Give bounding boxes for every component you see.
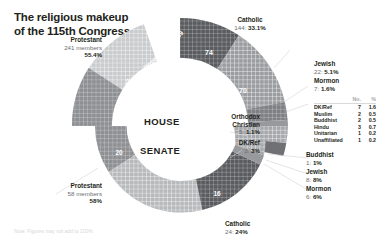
callout-label: Catholic xyxy=(212,16,288,24)
infographic-page: The religious makeupof the 115th Congres… xyxy=(0,0,379,248)
callout-pct: 5.1% xyxy=(324,68,338,75)
row-name: Unaffiliated xyxy=(314,137,350,144)
row-name: Muslim xyxy=(314,111,350,118)
row-pct: 0.5 xyxy=(361,117,376,124)
table-row: Unaffiliated 1 0.2 xyxy=(314,137,376,144)
minor-religions-table-head: No. % xyxy=(314,96,376,104)
row-no: 2 xyxy=(350,111,361,118)
senate-slice-catholic[interactable] xyxy=(196,151,260,210)
row-name: DK/Ref xyxy=(314,104,350,111)
row-name: Hindu xyxy=(314,124,350,131)
callout-label: Orthodox xyxy=(216,113,260,121)
row-name: Buddhist xyxy=(314,117,350,124)
row-no: 2 xyxy=(350,117,361,124)
callout-label-2: Christian xyxy=(216,121,260,129)
header-no: No. xyxy=(350,96,361,104)
header-name xyxy=(314,96,350,104)
callout-house-mormon: Mormon 7: 1.6% xyxy=(314,77,374,92)
callout-label: DK/Ref xyxy=(216,139,260,147)
header-pct: % xyxy=(361,96,376,104)
table-row: DK/Ref 7 1.6 xyxy=(314,104,376,111)
table-header-row: No. % xyxy=(314,96,376,104)
table-row: Unitarian 1 0.2 xyxy=(314,130,376,137)
row-pct: 1.6 xyxy=(361,104,376,111)
callout-house-jewish: Jewish 22: 5.1% xyxy=(314,60,374,75)
minor-religions-table: No. % DK/Ref 7 1.6 Muslim 2 0.5 Buddhist… xyxy=(314,96,376,144)
row-pct: 0.2 xyxy=(361,137,376,144)
callout-label: Mormon xyxy=(314,77,374,85)
callout-members: 58 members xyxy=(22,190,102,198)
callout-value: 24 xyxy=(225,228,232,235)
row-pct: 0.7 xyxy=(361,124,376,131)
callout-value: 22 xyxy=(314,68,321,75)
arc-label-catholic-democrats: 70 xyxy=(239,87,247,94)
callout-pct: 33.1% xyxy=(248,24,266,31)
callout-label: Jewish xyxy=(314,60,374,68)
row-no: 3 xyxy=(350,124,361,131)
callout-label: Jewish xyxy=(306,168,368,176)
callout-pct: 24% xyxy=(235,228,247,235)
table-row: Hindu 3 0.7 xyxy=(314,124,376,131)
callout-senate-mormon: Mormon 6: 6% xyxy=(306,185,368,200)
ring-label-senate: SENATE xyxy=(140,145,180,156)
table-row: Muslim 2 0.5 xyxy=(314,111,376,118)
senate-slice-protestant-light[interactable] xyxy=(109,155,203,213)
callout-members: 241 members xyxy=(18,44,102,52)
row-no: 7 xyxy=(350,104,361,111)
callout-label: Mormon xyxy=(306,185,368,193)
footnote: Note: Figures may not add to 100% xyxy=(14,228,93,234)
callout-label: Protestant xyxy=(18,36,102,44)
callout-senate-dkref: DK/Ref 3: 3% xyxy=(216,139,260,154)
row-no: 1 xyxy=(350,130,361,137)
callout-label: Protestant xyxy=(22,182,102,190)
callout-senate-catholic: Catholic 24: 24% xyxy=(225,220,295,235)
callout-pct: 1% xyxy=(313,159,322,166)
callout-pct: 1.1% xyxy=(246,128,260,135)
callout-pct: 6% xyxy=(313,193,322,200)
callout-house-catholic: Catholic 144: 33.1% xyxy=(212,16,288,31)
row-pct: 0.2 xyxy=(361,130,376,137)
callout-pct: 55.4% xyxy=(18,51,102,59)
callout-pct: 8% xyxy=(313,176,322,183)
table-row: Buddhist 2 0.5 xyxy=(314,117,376,124)
callout-label: Buddhist xyxy=(306,151,368,159)
minor-religions-table-body: DK/Ref 7 1.6 Muslim 2 0.5 Buddhist 2 0.5… xyxy=(314,104,376,144)
arc-label-catholic-republicans: 74 xyxy=(205,49,213,56)
callout-pct: 58% xyxy=(22,197,102,205)
callout-value: 144 xyxy=(234,24,244,31)
callout-house-protestant: Protestant 241 members 55.4% xyxy=(18,36,102,59)
callout-house-orthodox-christian: Orthodox Christian 5: 1.1% xyxy=(216,113,260,136)
callout-pct: 1.6% xyxy=(321,85,335,92)
ring-label-house: HOUSE xyxy=(144,116,180,127)
row-no: 1 xyxy=(350,137,361,144)
callout-senate-jewish: Jewish 8: 8% xyxy=(306,168,368,183)
row-name: Unitarian xyxy=(314,130,350,137)
row-pct: 0.5 xyxy=(361,111,376,118)
callout-pct: 3% xyxy=(251,147,260,154)
callout-senate-buddhist: Buddhist 1: 1% xyxy=(306,151,368,166)
arc-label-senate-catholic: 16 xyxy=(213,190,221,197)
callout-senate-protestant: Protestant 58 members 58% xyxy=(22,182,102,205)
arc-label-senate-protestant-dem: 20 xyxy=(115,149,123,156)
callout-label: Catholic xyxy=(225,220,295,228)
